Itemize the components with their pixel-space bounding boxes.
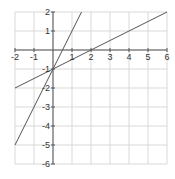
y-tick-label: -1 — [42, 64, 50, 74]
x-tick-label: 1 — [69, 52, 74, 62]
grid — [15, 12, 167, 164]
y-tick-label: -5 — [42, 140, 50, 150]
x-tick-label: 2 — [88, 52, 93, 62]
y-tick-label: -2 — [42, 83, 50, 93]
y-tick-label: -3 — [42, 102, 50, 112]
x-tick-label: -1 — [30, 52, 38, 62]
x-tick-label: 4 — [126, 52, 131, 62]
chart: -2-112345621-1-2-3-4-5-6 — [0, 0, 175, 179]
y-tick-label: 2 — [45, 7, 50, 17]
y-tick-label: 1 — [45, 26, 50, 36]
x-tick-label: -2 — [11, 52, 19, 62]
x-tick-label: 5 — [145, 52, 150, 62]
y-tick-label: -4 — [42, 121, 50, 131]
x-tick-label: 6 — [164, 52, 169, 62]
y-tick-label: -6 — [42, 159, 50, 169]
x-tick-label: 3 — [107, 52, 112, 62]
